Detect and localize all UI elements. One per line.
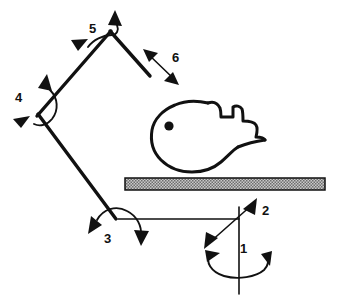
axis-label-2: 2 xyxy=(262,203,269,218)
axis-label-5: 5 xyxy=(89,21,96,36)
axis-3-arrowhead-down xyxy=(134,230,149,246)
axis-4-arrowhead-left xyxy=(13,116,30,128)
axis-1-base-rotation: 1 xyxy=(205,207,272,294)
axis-6-arrowhead-upper xyxy=(143,49,158,62)
link-wrist-to-gripper xyxy=(110,31,150,76)
axis-label-3: 3 xyxy=(104,231,111,246)
axis-label-1: 1 xyxy=(240,241,247,256)
base-rotation-arrowhead-left xyxy=(205,250,220,262)
robot-arm-diagram: 1 2 3 4 5 xyxy=(0,0,339,302)
link-elbow-to-lower xyxy=(38,114,116,219)
axis-2-shoulder-arrow: 2 xyxy=(204,198,269,249)
axis-2-arrowhead-lower xyxy=(204,232,218,249)
axis-2-arrowhead-upper xyxy=(243,198,257,215)
hand-eye-dot xyxy=(164,121,173,130)
axis-6-gripper-arrow: 6 xyxy=(143,49,179,85)
table-surface xyxy=(125,178,325,190)
axis-label-4: 4 xyxy=(15,90,23,105)
arm-links xyxy=(37,31,239,219)
base-rotation-arrowhead-right xyxy=(261,251,272,266)
diagram-root: 1 2 3 4 5 xyxy=(0,0,339,302)
axis-5-wrist-rotation: 5 xyxy=(71,10,122,51)
axis-label-6: 6 xyxy=(172,50,179,65)
base-rotation-arc xyxy=(208,254,268,278)
axis-3-elbow-rotation: 3 xyxy=(88,208,149,246)
hand-silhouette xyxy=(151,101,265,172)
axis-5-arrowhead-up xyxy=(108,10,122,26)
axis-6-arrowhead-lower xyxy=(164,72,179,85)
axis-5-arrowhead-left xyxy=(71,39,88,51)
axis-4-arrowhead-up xyxy=(38,74,52,91)
axis-3-arrowhead-left xyxy=(88,216,102,234)
table-surface-rect xyxy=(125,178,325,190)
